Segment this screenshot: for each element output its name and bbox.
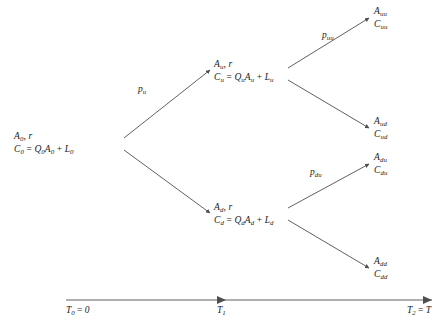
edge-down-to-dd [288, 220, 369, 268]
edge-up-to-ud [288, 80, 369, 128]
edge-label-p-du: pdu [310, 167, 322, 178]
node-root-line2: C0 = Q0A0 + L0 [14, 143, 74, 156]
node-leaf-ud-line2: Cud [374, 128, 387, 141]
time-axis-tick-t2-arrow [423, 296, 432, 304]
axis-tick-label-t2: T2 = T [407, 305, 431, 316]
node-root: A0, r C0 = Q0A0 + L0 [14, 130, 74, 156]
node-root-line1: A0, r [14, 130, 74, 143]
edge-up-to-uu [288, 18, 369, 68]
node-leaf-uu: Auu Cuu [374, 5, 387, 31]
node-leaf-du: Adu Cdu [374, 151, 387, 177]
node-leaf-ud: Aud Cud [374, 115, 387, 141]
node-down-line1: Ad, r [214, 201, 274, 214]
binomial-tree-figure: A0, r C0 = Q0A0 + L0 Au, r Cu = QuAu + L… [0, 0, 444, 336]
node-up-line2: Cu = QuAu + Lu [214, 71, 274, 84]
time-axis-tick-t1-arrow [217, 296, 226, 304]
node-down: Ad, r Cd = QdAd + Ld [214, 201, 274, 227]
edge-root-to-down [124, 150, 210, 213]
node-leaf-du-line2: Cdu [374, 164, 387, 177]
axis-tick-label-t1: T1 [217, 305, 226, 316]
node-up: Au, r Cu = QuAu + Lu [214, 58, 274, 84]
node-leaf-dd: Add Cdd [374, 255, 387, 281]
node-leaf-uu-line1: Auu [374, 5, 387, 18]
node-leaf-du-line1: Adu [374, 151, 387, 164]
node-leaf-uu-line2: Cuu [374, 18, 387, 31]
node-leaf-dd-line2: Cdd [374, 268, 387, 281]
node-up-line1: Au, r [214, 58, 274, 71]
edge-label-p-u: pu [138, 84, 146, 95]
axis-tick-label-t0: T0 = 0 [66, 305, 90, 316]
edge-root-to-up [124, 70, 210, 138]
edge-down-to-du [288, 164, 369, 208]
edge-label-p-uu: puu [322, 30, 334, 41]
node-leaf-ud-line1: Aud [374, 115, 387, 128]
node-down-line2: Cd = QdAd + Ld [214, 214, 274, 227]
node-leaf-dd-line1: Add [374, 255, 387, 268]
